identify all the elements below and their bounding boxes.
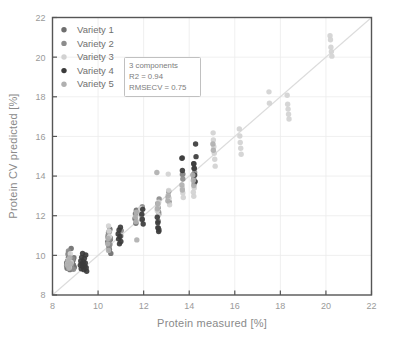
data-point	[179, 182, 184, 187]
x-axis-title: Protein measured [%]	[157, 317, 267, 329]
data-point	[190, 172, 195, 177]
y-tick-label: 20	[35, 53, 45, 63]
legend-marker-2	[61, 41, 66, 46]
data-point	[193, 141, 198, 146]
data-point	[134, 237, 139, 242]
data-point	[166, 171, 171, 176]
data-point	[118, 239, 123, 244]
data-point	[140, 221, 145, 226]
x-tick-label: 18	[275, 301, 285, 311]
data-point	[179, 156, 184, 161]
data-point	[210, 130, 215, 135]
y-axis-tick-labels: 810121416182022	[35, 13, 45, 301]
data-point	[238, 146, 243, 151]
data-point	[181, 195, 186, 200]
data-point	[105, 236, 110, 241]
y-tick-label: 12	[35, 211, 45, 221]
y-tick-label: 16	[35, 132, 45, 142]
data-point	[165, 198, 170, 203]
data-point	[68, 261, 73, 266]
data-point	[211, 148, 216, 153]
data-point	[193, 154, 198, 159]
y-tick-label: 8	[40, 290, 45, 300]
scatter-chart-figure: 810121416182022 810121416182022 Protein …	[0, 0, 396, 338]
data-point	[238, 140, 243, 145]
x-tick-label: 22	[366, 301, 376, 311]
data-point	[191, 183, 196, 188]
data-point	[133, 214, 138, 219]
legend-marker-4	[61, 68, 66, 73]
data-point	[134, 209, 139, 214]
data-point	[106, 223, 111, 228]
data-point	[286, 112, 291, 117]
data-point	[237, 126, 242, 131]
data-point	[84, 269, 89, 274]
legend-marker-5	[61, 82, 66, 87]
data-point	[106, 228, 111, 233]
y-axis-title: Protein CV predicted [%]	[7, 93, 19, 218]
data-point	[212, 157, 217, 162]
data-point	[286, 116, 291, 121]
data-point	[105, 241, 110, 246]
legend: Variety 1Variety 2Variety 3Variety 4Vari…	[61, 24, 113, 89]
data-point	[83, 252, 88, 257]
data-point	[285, 102, 290, 107]
y-tick-label: 14	[35, 171, 45, 181]
data-point	[166, 193, 171, 198]
y-tick-label: 10	[35, 251, 45, 261]
plot-canvas: 810121416182022 810121416182022 Protein …	[0, 0, 396, 338]
data-point	[212, 163, 217, 168]
x-axis-tick-labels: 810121416182022	[50, 301, 377, 311]
legend-marker-1	[61, 27, 66, 32]
data-point	[139, 211, 144, 216]
x-tick-label: 8	[50, 301, 55, 311]
legend-label-3[interactable]: Variety 3	[77, 51, 114, 62]
data-point	[238, 152, 243, 157]
y-tick-label: 22	[35, 13, 45, 23]
data-point	[118, 225, 123, 230]
data-point	[156, 229, 161, 234]
legend-label-2[interactable]: Variety 2	[77, 38, 114, 49]
data-point	[210, 141, 215, 146]
model-stats-annotation: 3 components R2 = 0.94 RMSECV = 0.75	[125, 58, 201, 97]
legend-label-4[interactable]: Variety 4	[77, 65, 114, 76]
x-tick-label: 10	[93, 301, 103, 311]
data-point	[284, 93, 289, 98]
legend-label-5[interactable]: Variety 5	[77, 78, 114, 89]
x-tick-label: 12	[139, 301, 149, 311]
data-point	[329, 49, 334, 54]
annotation-r2: R2 = 0.94	[129, 72, 164, 81]
data-point	[191, 161, 196, 166]
legend-marker-3	[61, 54, 66, 59]
data-point	[192, 166, 197, 171]
data-point	[155, 220, 160, 225]
data-point	[117, 234, 122, 239]
data-point	[155, 206, 160, 211]
data-point	[180, 168, 185, 173]
x-tick-label: 16	[230, 301, 240, 311]
data-point	[140, 207, 145, 212]
data-point	[180, 187, 185, 192]
data-point	[83, 260, 88, 265]
data-point	[155, 201, 160, 206]
data-point	[154, 170, 159, 175]
annotation-rmsecv: RMSECV = 0.75	[129, 83, 187, 92]
data-point	[106, 248, 111, 253]
data-point	[191, 194, 196, 199]
data-point	[133, 219, 138, 224]
data-point	[267, 100, 272, 105]
data-point	[285, 106, 290, 111]
data-point	[329, 53, 334, 58]
data-point	[328, 37, 333, 42]
x-tick-label: 14	[184, 301, 194, 311]
legend-label-1[interactable]: Variety 1	[77, 24, 114, 35]
data-point	[166, 188, 171, 193]
data-point	[155, 215, 160, 220]
data-point	[140, 217, 145, 222]
data-point	[67, 255, 72, 260]
y-tick-label: 18	[35, 92, 45, 102]
data-point	[266, 89, 271, 94]
x-tick-label: 20	[321, 301, 331, 311]
data-point	[191, 178, 196, 183]
data-point	[237, 133, 242, 138]
